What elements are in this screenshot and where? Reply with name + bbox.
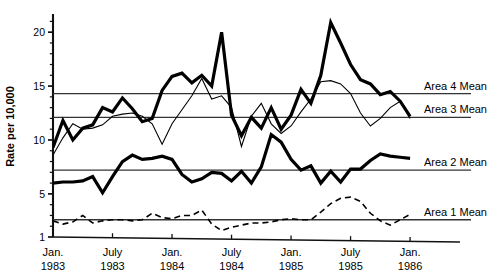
x-axis-tick-label-year: 1984 [160,260,184,272]
x-axis-tick-label-month: Jan. [162,246,183,258]
x-axis-tick-label-year: 1983 [41,260,65,272]
x-axis-tick-label-year: 1983 [100,260,124,272]
y-axis-tick-label: 1 [39,231,45,243]
x-axis-tick-label-month: Jan. [43,246,64,258]
x-axis-line [53,237,460,242]
series-label-area-4: Area 4 Mean [424,80,487,92]
y-axis-tick-label: 20 [33,26,45,38]
y-axis-tick-label: 5 [39,188,45,200]
data-series-area-2 [53,135,410,193]
line-chart: 15101520Rate per 10,000Jan.1983July1983J… [0,0,490,279]
x-axis-tick-label-year: 1984 [219,260,243,272]
y-axis-tick-label: 10 [33,134,45,146]
y-axis-title: Rate per 10,000 [4,86,16,167]
x-axis-tick-label-month: July [103,246,123,258]
data-series-area-1 [53,197,410,230]
data-series-area-4 [53,22,410,147]
x-axis-tick-label-year: 1985 [338,260,362,272]
chart-container: 15101520Rate per 10,000Jan.1983July1983J… [0,0,490,279]
x-axis-tick-label-month: Jan. [400,246,421,258]
series-label-area-3: Area 3 Mean [424,103,487,115]
x-axis-tick-label-month: July [222,246,242,258]
series-label-area-2: Area 2 Mean [424,156,487,168]
x-axis-tick-label-year: 1986 [398,260,422,272]
x-axis-tick-label-month: Jan. [281,246,302,258]
y-axis-tick-label: 15 [33,80,45,92]
x-axis-tick-label-month: July [341,246,361,258]
x-axis-tick-label-year: 1985 [279,260,303,272]
series-label-area-1: Area 1 Mean [424,206,487,218]
